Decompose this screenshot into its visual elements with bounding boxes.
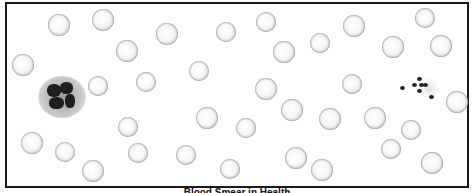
red-blood-cell [342, 74, 362, 94]
red-blood-cell [255, 78, 277, 100]
red-blood-cell [311, 159, 333, 181]
red-blood-cell [189, 61, 209, 81]
red-blood-cell [256, 12, 276, 32]
nucleus-lobe [65, 94, 75, 108]
red-blood-cell [285, 147, 307, 169]
red-blood-cell [310, 33, 330, 53]
red-blood-cell [88, 76, 108, 96]
red-blood-cell [381, 139, 401, 159]
red-blood-cell [55, 142, 75, 162]
red-blood-cell [118, 117, 138, 137]
red-blood-cell [236, 118, 256, 138]
red-blood-cell [156, 23, 178, 45]
red-blood-cell [273, 41, 295, 63]
red-blood-cell [128, 143, 148, 163]
platelet [417, 89, 422, 93]
red-blood-cell [176, 145, 196, 165]
nucleus-lobe [60, 82, 73, 94]
red-blood-cell [12, 54, 34, 76]
platelet [423, 83, 428, 87]
platelet [429, 95, 434, 99]
red-blood-cell [216, 22, 236, 42]
red-blood-cell [281, 99, 303, 121]
red-blood-cell [48, 14, 70, 36]
white-blood-cell [38, 76, 86, 118]
red-blood-cell [82, 160, 104, 182]
red-blood-cell [430, 35, 452, 57]
red-blood-cell [136, 72, 156, 92]
red-blood-cell [116, 40, 138, 62]
red-blood-cell [382, 36, 404, 58]
red-blood-cell [415, 8, 435, 28]
red-blood-cell [92, 9, 114, 31]
nucleus-lobe [47, 84, 61, 97]
red-blood-cell [364, 107, 386, 129]
red-blood-cell [196, 107, 218, 129]
red-blood-cell [220, 159, 240, 179]
platelet [400, 86, 405, 90]
red-blood-cell [343, 15, 365, 37]
platelet [417, 77, 422, 81]
red-blood-cell [421, 152, 443, 174]
red-blood-cell [21, 132, 43, 154]
red-blood-cell [401, 120, 421, 140]
red-blood-cell [319, 108, 341, 130]
red-blood-cell [446, 91, 468, 113]
platelet [412, 83, 417, 87]
nucleus-lobe [49, 97, 64, 109]
figure-caption: Blood Smear in Health [0, 188, 474, 193]
